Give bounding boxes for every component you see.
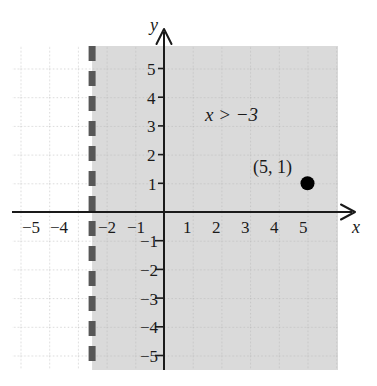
y-tick-label-neg2: −2 (140, 262, 158, 279)
y-tick-label-3: 3 (147, 118, 156, 135)
y-tick-label-neg5: −5 (140, 348, 158, 365)
x-tick-label-2: 2 (212, 219, 221, 236)
inequality-annotation: x > −3 (205, 105, 258, 124)
x-tick-label-neg4: −4 (50, 219, 68, 236)
grid-lines (12, 46, 338, 370)
x-tick-label-3: 3 (241, 219, 250, 236)
y-tick-label-neg1: −1 (140, 233, 158, 250)
point-marker-5-1 (301, 176, 315, 190)
x-tick-label-4: 4 (270, 219, 279, 236)
coordinate-plane-svg (0, 0, 377, 386)
y-axis-label: y (150, 16, 158, 34)
x-tick-label-5: 5 (299, 219, 308, 236)
x-axis-label: x (352, 218, 360, 236)
y-tick-label-neg4: −4 (140, 319, 158, 336)
y-tick-label-4: 4 (147, 90, 156, 107)
point-label-5-1: (5, 1) (253, 158, 292, 176)
x-tick-label-1: 1 (183, 219, 192, 236)
inequality-graph-figure: y x x > −3 (5, 1) −5 −4 −2 −1 1 2 3 4 5 … (0, 0, 377, 386)
x-tick-label-neg5: −5 (22, 219, 40, 236)
y-tick-label-neg3: −3 (140, 291, 158, 308)
y-tick-label-1: 1 (148, 176, 157, 193)
y-tick-label-2: 2 (147, 147, 156, 164)
y-tick-label-5: 5 (147, 61, 156, 78)
x-tick-label-neg2: −2 (98, 219, 116, 236)
